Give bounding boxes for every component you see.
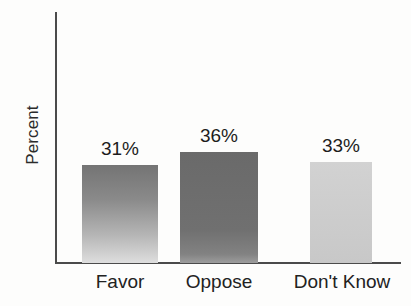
y-axis-title: Percent bbox=[23, 85, 43, 185]
plot-area: 31% 36% 33% bbox=[57, 12, 401, 263]
x-axis-label-dontknow: Don't Know bbox=[283, 271, 401, 293]
bar-group-favor: 31% bbox=[82, 12, 158, 263]
bar-oppose bbox=[180, 152, 258, 263]
bar-chart: Percent 31% 36% 33% Favor Oppose Don't K… bbox=[0, 0, 411, 306]
bar-value-oppose: 36% bbox=[180, 125, 258, 147]
bar-group-oppose: 36% bbox=[180, 12, 258, 263]
bar-group-dontknow: 33% bbox=[310, 12, 372, 263]
x-axis-label-favor: Favor bbox=[72, 271, 168, 293]
bar-favor bbox=[82, 165, 158, 263]
bar-value-dontknow: 33% bbox=[310, 135, 372, 157]
bar-dontknow bbox=[310, 162, 372, 263]
x-axis-label-oppose: Oppose bbox=[170, 271, 268, 293]
bar-value-favor: 31% bbox=[82, 138, 158, 160]
